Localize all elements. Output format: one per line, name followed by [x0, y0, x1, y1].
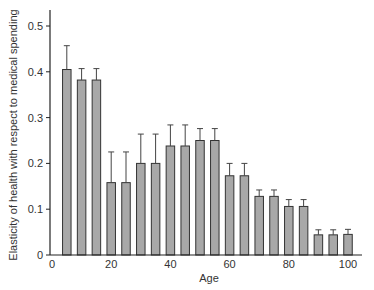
x-tick-label: 80 [283, 258, 295, 270]
x-tick-label: 0 [49, 258, 55, 270]
y-tick-label: 0 [37, 249, 43, 261]
bar [270, 196, 279, 255]
bar [299, 206, 308, 255]
bar [285, 206, 294, 255]
bar [166, 146, 175, 255]
bar [225, 176, 234, 255]
bar [255, 196, 264, 255]
y-tick-label: 0.1 [28, 203, 43, 215]
bars-group [63, 70, 353, 255]
bar [196, 141, 205, 256]
y-tick-label: 0.4 [28, 66, 43, 78]
y-ticks: 00.10.20.30.40.5 [28, 20, 50, 261]
bar-chart: 00.10.20.30.40.5 020406080100 Age Elasti… [0, 0, 374, 290]
bar [63, 70, 72, 255]
bar [92, 80, 101, 255]
y-tick-label: 0.5 [28, 20, 43, 32]
x-tick-label: 100 [339, 258, 357, 270]
x-tick-label: 40 [164, 258, 176, 270]
bar [314, 235, 323, 255]
bar [137, 163, 146, 255]
x-ticks: 020406080100 [49, 258, 357, 270]
bar [181, 146, 190, 255]
y-tick-label: 0.3 [28, 112, 43, 124]
x-axis-label: Age [199, 272, 219, 284]
bar [344, 234, 353, 255]
x-tick-label: 20 [105, 258, 117, 270]
bar [329, 235, 338, 255]
x-tick-label: 60 [223, 258, 235, 270]
y-axis-label: Elasticity of health with respect to med… [7, 9, 19, 260]
bar [77, 80, 86, 255]
bar [151, 163, 160, 255]
bar [107, 183, 116, 255]
bar [211, 141, 220, 256]
bar [122, 183, 131, 255]
y-tick-label: 0.2 [28, 157, 43, 169]
bar [240, 176, 249, 255]
